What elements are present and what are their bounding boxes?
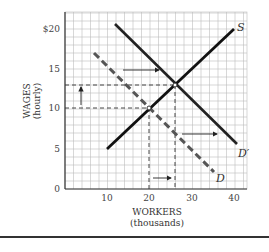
plot-grid — [65, 12, 247, 189]
y-tick-20: $20 — [43, 24, 60, 34]
y-tick-0: 0 — [54, 184, 60, 194]
x-tick-20: 20 — [143, 193, 155, 203]
y-tick-10: 10 — [49, 103, 61, 113]
label-d-prime: D′ — [237, 147, 250, 160]
equilibrium-point-new — [173, 83, 177, 87]
x-axis-subtitle: (thousands) — [130, 218, 184, 228]
y-axis-title-sub: (hourly) — [32, 83, 42, 119]
y-tick-labels: $20 15 10 5 0 — [43, 24, 60, 194]
equilibrium-point-initial — [147, 106, 151, 110]
label-d: D — [215, 172, 225, 185]
x-tick-labels: 10 20 30 40 — [101, 193, 240, 203]
y-axis-title-main: WAGES — [22, 83, 32, 118]
labor-market-chart: $20 15 10 5 0 10 20 30 40 WAGES (hourly)… — [0, 0, 269, 252]
y-axis-title: WAGES (hourly) — [22, 83, 42, 119]
x-axis-title: WORKERS — [132, 207, 182, 217]
x-tick-40: 40 — [228, 193, 240, 203]
y-tick-5: 5 — [54, 144, 60, 154]
x-tick-10: 10 — [101, 193, 113, 203]
label-s: S — [237, 21, 245, 34]
y-tick-15: 15 — [49, 64, 61, 74]
x-tick-30: 30 — [186, 193, 198, 203]
divider-rule — [0, 236, 269, 238]
